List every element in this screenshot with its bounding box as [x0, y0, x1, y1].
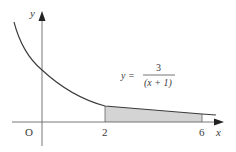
x-tick-2: 2 [102, 127, 108, 138]
y-axis-label: y [30, 8, 35, 19]
shaded-area [105, 106, 202, 122]
equation-numerator: 3 [156, 63, 161, 73]
x-tick-6: 6 [199, 127, 205, 138]
origin-label: O [25, 127, 33, 138]
curve [14, 22, 216, 115]
y-axis-arrow-icon [39, 11, 46, 21]
function-graph: y x O 2 6 y = 3 (x + 1) [0, 0, 236, 152]
x-axis-arrow-icon [214, 119, 224, 126]
equation-lhs: y = [121, 71, 135, 81]
x-axis-label: x [216, 127, 221, 138]
equation-denominator: (x + 1) [144, 78, 172, 88]
